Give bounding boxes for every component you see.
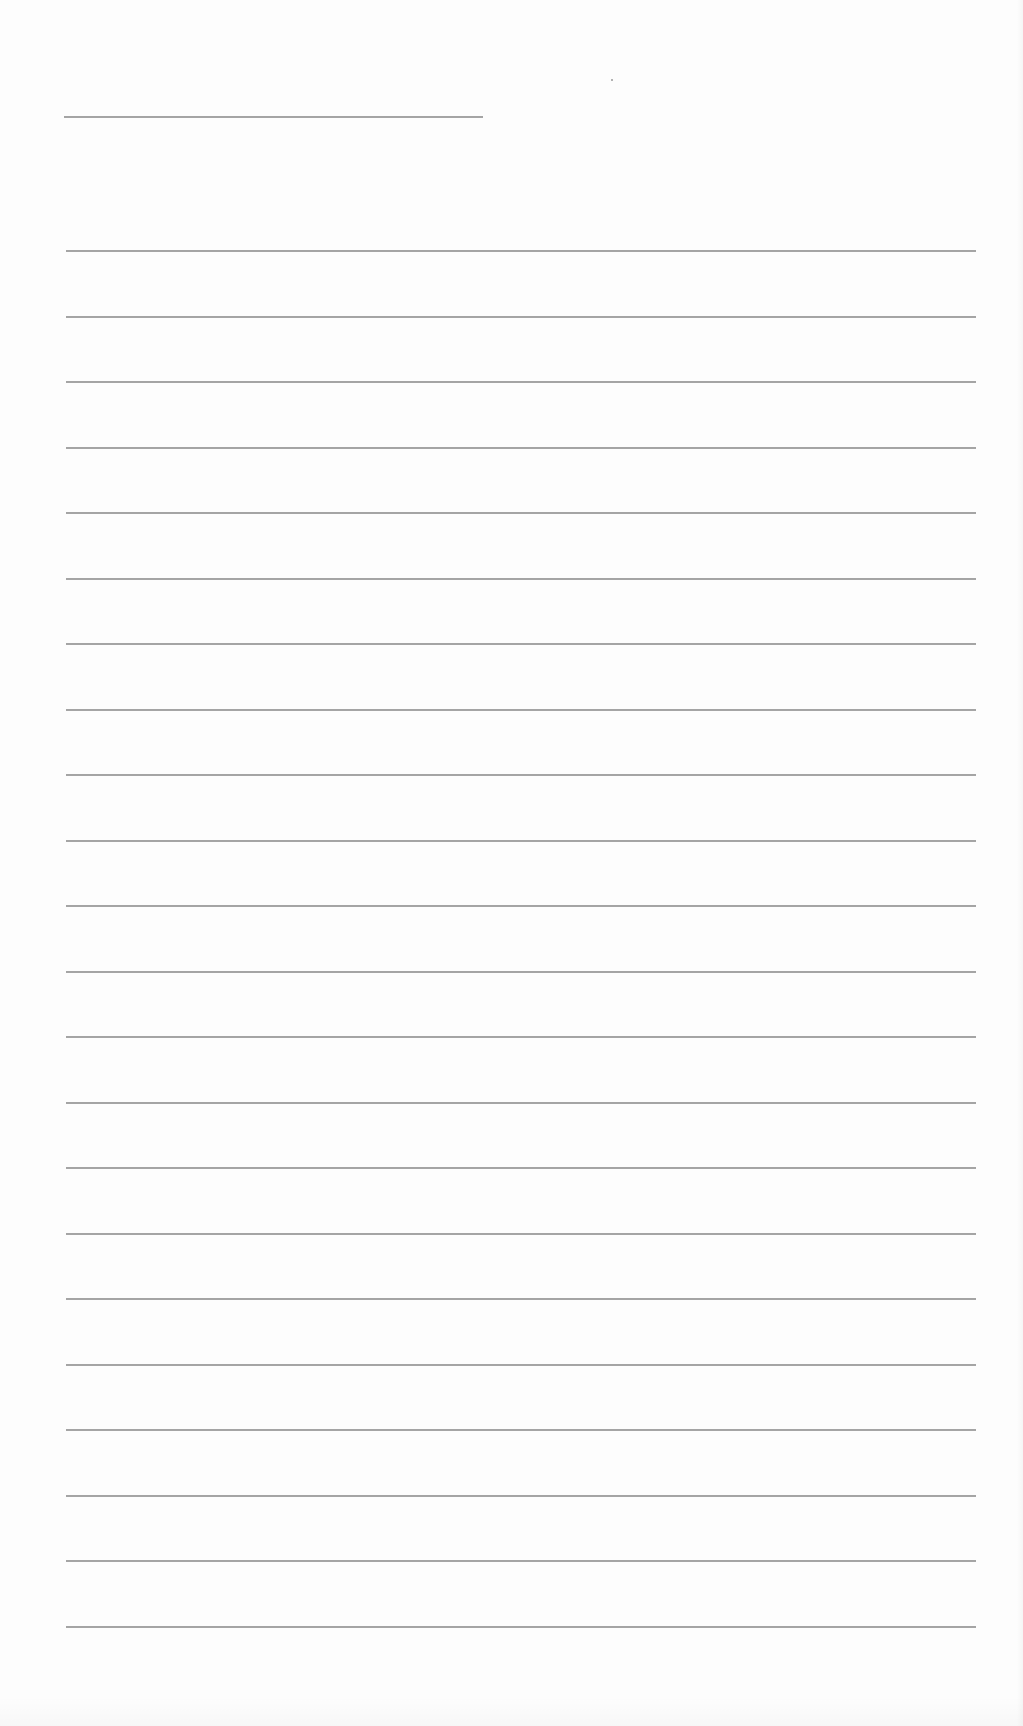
scan-edge-shade [1017,0,1023,1726]
ruled-line [66,250,976,252]
ruled-line [66,1560,976,1562]
ruled-line [66,1102,976,1104]
ruled-line [66,1036,976,1038]
ruled-line [66,1626,976,1628]
scan-bottom-shade [0,1696,1023,1726]
ruled-line [66,774,976,776]
ruled-line [66,1364,976,1366]
ruled-line [66,1429,976,1431]
ruled-line [66,1233,976,1235]
ruled-line [66,840,976,842]
ruled-line [66,643,976,645]
lined-paper-page [0,0,1023,1726]
ruled-line [66,1495,976,1497]
ruled-line [66,578,976,580]
ruled-line [66,971,976,973]
ruled-line [66,709,976,711]
ruled-line [66,1167,976,1169]
ruled-line [66,1298,976,1300]
header-rule [64,116,483,118]
ruled-line [66,512,976,514]
ruled-line [66,447,976,449]
ruled-line [66,316,976,318]
ruled-line [66,381,976,383]
ruled-line [66,905,976,907]
paper-speck [611,79,613,81]
